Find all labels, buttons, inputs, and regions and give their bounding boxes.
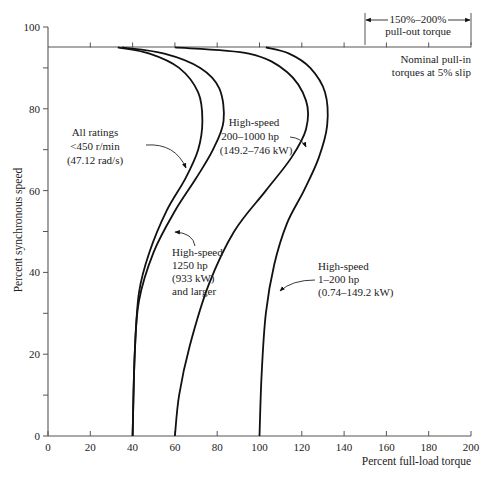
y-tick-label: 60 bbox=[29, 185, 41, 197]
svg-text:(933 kW): (933 kW) bbox=[172, 272, 215, 285]
y-tick-label: 20 bbox=[29, 348, 41, 360]
curve-3 bbox=[260, 47, 328, 436]
y-tick-label: 40 bbox=[29, 266, 41, 278]
svg-text:(0.74–149.2 kW): (0.74–149.2 kW) bbox=[318, 286, 394, 299]
curve-2 bbox=[175, 47, 308, 436]
curve-1 bbox=[122, 47, 224, 436]
svg-text:Nominal pull-in: Nominal pull-in bbox=[400, 53, 471, 65]
x-tick-label: 40 bbox=[127, 441, 139, 453]
y-tick-label: 0 bbox=[35, 430, 41, 442]
x-tick-label: 80 bbox=[212, 441, 224, 453]
annotation-all-ratings: All ratings <450 r/min (47.12 rad/s) bbox=[67, 126, 186, 168]
y-ticks: 020406080100 bbox=[24, 21, 49, 442]
pull-out-torque-bracket: 150%–200% pull-out torque bbox=[365, 13, 471, 45]
x-tick-label: 0 bbox=[45, 441, 51, 453]
reference-line-label: Nominal pull-in torques at 5% slip bbox=[392, 53, 472, 78]
svg-text:and larger: and larger bbox=[172, 285, 216, 297]
svg-text:1250 hp: 1250 hp bbox=[172, 259, 208, 271]
y-tick-label: 80 bbox=[29, 103, 41, 115]
bracket-label-1: 150%–200% bbox=[390, 13, 447, 25]
y-axis-title: Percent synchronous speed bbox=[12, 167, 25, 292]
x-tick-label: 160 bbox=[378, 441, 395, 453]
x-tick-label: 180 bbox=[420, 441, 437, 453]
x-ticks: 020406080100120140160180200 bbox=[45, 431, 480, 453]
curves bbox=[118, 47, 328, 436]
axes bbox=[48, 27, 471, 436]
torque-speed-chart: 020406080100120140160180200 020406080100… bbox=[0, 0, 492, 480]
svg-text:200–1000 hp: 200–1000 hp bbox=[221, 130, 279, 142]
x-tick-label: 140 bbox=[336, 441, 353, 453]
x-axis-title: Percent full-load torque bbox=[362, 455, 471, 468]
svg-text:High-speed: High-speed bbox=[318, 260, 369, 272]
curve-0 bbox=[118, 47, 203, 436]
svg-text:<450 r/min: <450 r/min bbox=[70, 140, 120, 152]
bracket-label-2: pull-out torque bbox=[385, 25, 451, 37]
svg-text:High-speed: High-speed bbox=[172, 246, 223, 258]
annotation-200-1000hp: High-speed 200–1000 hp (149.2–746 kW) bbox=[220, 116, 306, 157]
x-tick-label: 20 bbox=[85, 441, 97, 453]
annotation-1-200hp: High-speed 1–200 hp (0.74–149.2 kW) bbox=[280, 260, 394, 299]
svg-text:High-speed: High-speed bbox=[229, 116, 280, 128]
x-tick-label: 200 bbox=[463, 441, 480, 453]
x-tick-label: 60 bbox=[169, 441, 181, 453]
x-tick-label: 100 bbox=[251, 441, 268, 453]
svg-text:1–200 hp: 1–200 hp bbox=[318, 273, 360, 285]
x-tick-label: 120 bbox=[294, 441, 311, 453]
svg-text:All ratings: All ratings bbox=[72, 126, 119, 138]
svg-text:torques at 5% slip: torques at 5% slip bbox=[392, 66, 472, 78]
annotation-1250hp: High-speed 1250 hp (933 kW) and larger bbox=[172, 232, 223, 297]
svg-text:(149.2–746 kW): (149.2–746 kW) bbox=[220, 144, 293, 157]
svg-text:(47.12 rad/s): (47.12 rad/s) bbox=[67, 154, 124, 167]
y-tick-label: 100 bbox=[24, 21, 41, 33]
